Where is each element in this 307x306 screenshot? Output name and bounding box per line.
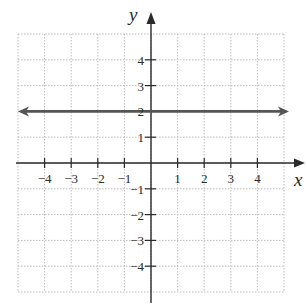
y-tick-label: −1 <box>130 182 144 197</box>
axes <box>16 12 305 303</box>
coordinate-plane: −4−3−2−112344321−1−2−3−4 x y <box>0 0 307 306</box>
y-tick-label: 2 <box>138 104 145 119</box>
x-tick-label: −3 <box>64 171 78 186</box>
y-tick-label: 1 <box>138 130 145 145</box>
x-axis-arrow-icon <box>294 159 305 168</box>
y-tick-label: −4 <box>130 259 144 274</box>
x-tick-label: 3 <box>228 171 235 186</box>
x-tick-label: 4 <box>254 171 261 186</box>
y-tick-label: −3 <box>130 233 144 248</box>
y-axis-label: y <box>127 4 138 25</box>
y-tick-label: −2 <box>130 208 144 223</box>
x-tick-label: 1 <box>174 171 181 186</box>
x-tick-label: −2 <box>91 171 105 186</box>
plot-svg: −4−3−2−112344321−1−2−3−4 x y <box>0 0 307 306</box>
y-axis-arrow-icon <box>147 12 156 24</box>
y-tick-label: 4 <box>138 53 145 68</box>
y-tick-label: 3 <box>138 79 145 94</box>
x-axis-label: x <box>293 169 303 190</box>
series <box>18 106 289 116</box>
x-tick-label: 2 <box>201 171 208 186</box>
x-tick-label: −4 <box>38 171 52 186</box>
